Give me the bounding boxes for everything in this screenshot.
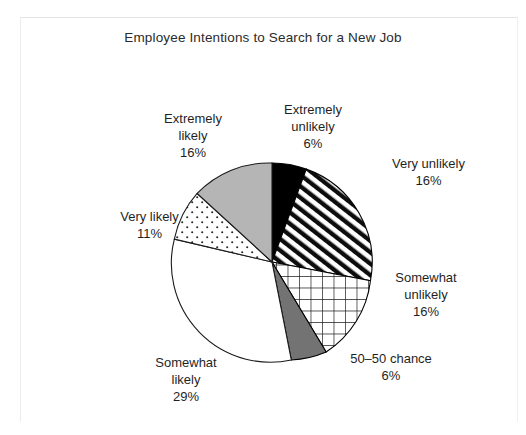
label-percent: 16% [366, 303, 486, 320]
label-percent: 29% [126, 388, 246, 405]
label-line2: unlikely [291, 119, 334, 134]
label-line2: unlikely [404, 287, 447, 302]
slice-label-somewhat-likely: Somewhat likely 29% [126, 354, 246, 405]
label-line1: Extremely [284, 102, 342, 117]
slice-label-somewhat-unlikely: Somewhat unlikely 16% [366, 269, 486, 320]
label-percent: 16% [138, 144, 248, 161]
label-line1: Extremely [164, 111, 222, 126]
label-line1: Somewhat [395, 270, 456, 285]
label-line1: Somewhat [155, 355, 216, 370]
pie-chart-figure: Employee Intentions to Search for a New … [0, 0, 526, 435]
slice-label-very-unlikely: Very unlikely 16% [366, 155, 491, 189]
slice-label-very-likely: Very likely 11% [92, 208, 207, 242]
slice-label-fifty-fifty-chance: 50–50 chance 6% [326, 350, 456, 384]
pie-slices [171, 163, 372, 362]
label-line2: likely [179, 128, 208, 143]
label-line1: Very likely [120, 209, 179, 224]
slice-label-extremely-unlikely: Extremely unlikely 6% [258, 101, 368, 152]
label-line2: likely [172, 372, 201, 387]
slice-label-extremely-likely: Extremely likely 16% [138, 110, 248, 161]
label-percent: 6% [326, 367, 456, 384]
label-line1: 50–50 chance [350, 351, 432, 366]
label-percent: 16% [366, 172, 491, 189]
label-line1: Very unlikely [392, 156, 465, 171]
label-percent: 11% [92, 225, 207, 242]
label-percent: 6% [258, 135, 368, 152]
